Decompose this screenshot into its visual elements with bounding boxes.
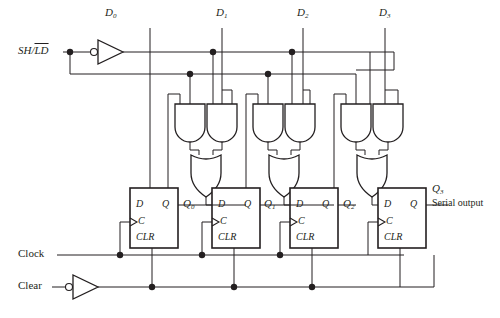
and-gate-0-right <box>207 104 237 142</box>
q2-letter: Q <box>343 197 351 209</box>
ff0-q-label: Q <box>162 198 169 209</box>
q1-letter: Q <box>264 197 272 209</box>
d2-sub: 2 <box>305 12 309 20</box>
and-gate-1-left <box>253 104 283 142</box>
output-label-q3: Q3 <box>432 182 443 194</box>
q0-letter: Q <box>183 197 191 209</box>
clock-label: Clock <box>18 247 44 259</box>
d0-letter: D <box>105 6 113 18</box>
output-label-q1: Q1 <box>264 197 275 209</box>
q0-sub: 0 <box>191 203 195 211</box>
clear-label: Clear <box>18 279 42 291</box>
dot-clr-1 <box>231 284 237 290</box>
and-gate-2-right <box>373 104 403 142</box>
ff3-q-label: Q <box>410 198 417 209</box>
input-label-d0: D0 <box>105 6 116 18</box>
d2-letter: D <box>297 6 305 18</box>
shift-load-label: SH/LD <box>18 44 49 56</box>
ff1-d-label: D <box>218 198 225 209</box>
q2-sub: 2 <box>351 203 355 211</box>
ff3-clr-label: CLR <box>384 231 402 242</box>
d1-sub: 1 <box>224 12 228 20</box>
dot-clr-0 <box>149 284 155 290</box>
ff2-d-label: D <box>296 198 303 209</box>
d3-letter: D <box>379 6 387 18</box>
dot-shift-1 <box>289 49 295 55</box>
ff1-q-label: Q <box>244 198 251 209</box>
ff2-q-label: Q <box>322 198 329 209</box>
inverter-triangle-shld <box>98 40 123 64</box>
shift-load-prefix: SH/ <box>18 44 35 56</box>
dot-load-1 <box>265 71 271 77</box>
wire-layer <box>52 28 448 299</box>
dot-load-0 <box>187 71 193 77</box>
input-label-d1: D1 <box>216 6 227 18</box>
shift-load-overline: LD <box>35 44 49 56</box>
d3-sub: 3 <box>387 12 391 20</box>
output-label-q2: Q2 <box>343 197 354 209</box>
input-label-d3: D3 <box>379 6 390 18</box>
ff3-d-label: D <box>384 198 391 209</box>
ff3-c-label: C <box>386 215 393 226</box>
inverter-bubble-clear <box>66 284 73 291</box>
ff1-clr-label: CLR <box>218 231 236 242</box>
circuit-svg <box>0 0 500 318</box>
inverter-bubble-shld <box>91 49 98 56</box>
ff0-d-label: D <box>136 198 143 209</box>
q3-sub: 3 <box>440 188 444 196</box>
dot-shld <box>67 49 73 55</box>
input-label-d2: D2 <box>297 6 308 18</box>
dot-clk-0 <box>117 252 123 258</box>
dot-clk-1 <box>199 252 205 258</box>
d1-letter: D <box>216 6 224 18</box>
dot-shift-0 <box>210 49 216 55</box>
and-gate-2-left <box>341 104 371 142</box>
and-gate-0-left <box>175 104 205 142</box>
ff0-c-label: C <box>138 215 145 226</box>
inverter-triangle-clear <box>73 275 98 299</box>
output-label-q0: Q0 <box>183 197 194 209</box>
serial-output-label: Serial output <box>432 197 483 208</box>
dot-clr-2 <box>309 284 315 290</box>
ff1-c-label: C <box>220 215 227 226</box>
d0-sub: 0 <box>113 12 117 20</box>
logic-diagram: SH/LD D0 D1 D2 D3 D Q C CLR D Q C CLR D … <box>0 0 500 318</box>
and-gate-1-right <box>285 104 315 142</box>
ff2-clr-label: CLR <box>296 231 314 242</box>
dot-clk-2 <box>277 252 283 258</box>
q3-letter: Q <box>432 182 440 194</box>
ff2-c-label: C <box>298 215 305 226</box>
ff0-clr-label: CLR <box>136 231 154 242</box>
q1-sub: 1 <box>272 203 276 211</box>
